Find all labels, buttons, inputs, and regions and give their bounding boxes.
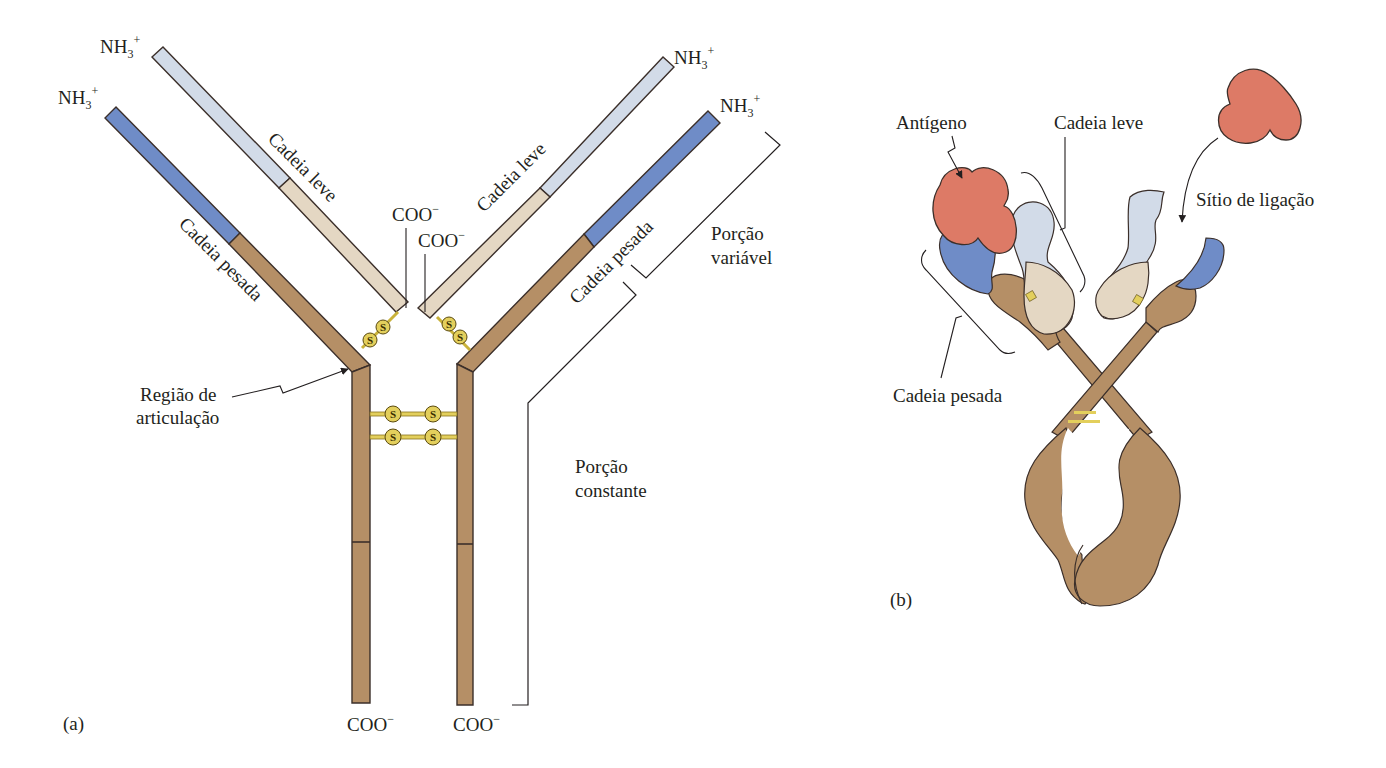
panel-b-tag: (b) (890, 589, 912, 611)
fc-region (1025, 428, 1180, 606)
svg-text:NH3+: NH3+ (58, 84, 98, 112)
svg-text:NH3+: NH3+ (674, 44, 714, 72)
svg-text:S: S (430, 431, 436, 443)
svg-text:NH3+: NH3+ (100, 33, 140, 61)
svg-text:S: S (380, 321, 386, 333)
n-terminus-label-2: NH3+ (58, 84, 98, 112)
free-antigen (1219, 69, 1301, 143)
binding-site-label: Sítio de ligação (1196, 189, 1314, 210)
constant-portion-bracket: Porção constante (512, 282, 647, 705)
right-light-heavy-disulfide: S S (437, 317, 470, 350)
svg-text:Porção: Porção (711, 223, 764, 244)
hinge-region-callout: Região de articulação (136, 369, 348, 428)
heavy-heavy-disulfide-bonds: S S S S (370, 406, 457, 445)
c-terminus-heavy-left: COO− (347, 712, 394, 735)
svg-text:Porção: Porção (575, 456, 628, 477)
variable-portion-bracket: Porção variável (631, 132, 780, 278)
svg-text:articulação: articulação (136, 407, 219, 428)
panel-a: S S S S S S S S NH3+ (58, 33, 780, 735)
left-light-chain (152, 47, 408, 312)
svg-text:S: S (367, 334, 373, 346)
hinge-arrow (232, 369, 348, 397)
left-heavy-chain-stem (352, 365, 370, 703)
svg-text:Região de: Região de (140, 384, 217, 405)
svg-text:COO−: COO− (453, 712, 500, 735)
svg-text:NH3+: NH3+ (720, 92, 760, 120)
svg-text:Cadeia leve: Cadeia leve (1054, 112, 1143, 133)
svg-text:S: S (390, 431, 396, 443)
panel-b: Antígeno Cadeia leve Cadeia pesada Sítio… (890, 69, 1314, 611)
crossed-heavy-stems (1046, 322, 1157, 440)
svg-text:variável: variável (711, 247, 772, 268)
n-terminus-label-3: NH3+ (674, 44, 714, 72)
left-light-heavy-disulfide: S S (362, 312, 398, 348)
svg-text:S: S (446, 318, 452, 330)
svg-text:Antígeno: Antígeno (896, 112, 967, 133)
antigen-callout: Antígeno (896, 112, 967, 178)
svg-text:Cadeia pesada: Cadeia pesada (893, 385, 1003, 406)
right-heavy-chain-stem (457, 364, 473, 705)
svg-text:COO−: COO− (392, 202, 439, 225)
svg-text:COO−: COO− (418, 228, 465, 251)
svg-text:S: S (430, 408, 436, 420)
n-terminus-label-4: NH3+ (720, 92, 760, 120)
c-terminus-heavy-right: COO− (453, 712, 500, 735)
right-heavy-chain-fab (1146, 238, 1224, 332)
antibody-diagram: S S S S S S S S NH3+ (0, 0, 1386, 768)
svg-text:S: S (457, 331, 463, 343)
svg-text:S: S (390, 408, 396, 420)
n-terminus-label-1: NH3+ (100, 33, 140, 61)
panel-a-tag: (a) (63, 713, 84, 735)
svg-text:constante: constante (575, 480, 647, 501)
svg-text:COO−: COO− (347, 712, 394, 735)
